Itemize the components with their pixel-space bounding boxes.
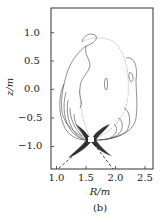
x-point-cluster: [68, 124, 112, 158]
ytick-label: 0.5: [24, 56, 40, 66]
ytick-label: 1.0: [24, 28, 40, 38]
xtick-label: 2.0: [108, 173, 124, 183]
panel-label: (b): [93, 203, 107, 213]
xtick-label: 2.5: [137, 173, 153, 183]
flux-contours: [60, 34, 137, 140]
plot-frame: [51, 8, 153, 169]
ytick-label: −0.5: [18, 113, 42, 123]
ytick-label: 0.0: [24, 84, 40, 94]
xtick-label: 1.0: [49, 173, 65, 183]
y-axis-label: z/m: [4, 78, 15, 96]
ytick-label: −1.0: [18, 141, 42, 151]
x-axis-label: R/m: [90, 187, 110, 197]
xtick-label: 1.5: [78, 173, 94, 183]
lcfs-boundary: [80, 38, 128, 140]
